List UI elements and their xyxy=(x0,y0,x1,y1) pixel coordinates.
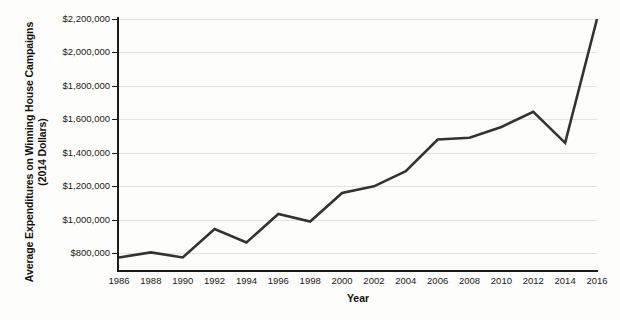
series-polyline xyxy=(119,19,597,257)
y-axis-tick-label: $1,800,000 xyxy=(40,80,110,91)
y-axis-tick-mark xyxy=(112,186,118,187)
y-axis-tick-mark xyxy=(112,253,118,254)
x-axis-tick-label: 2016 xyxy=(577,275,617,286)
y-axis-tick-mark xyxy=(112,52,118,53)
y-axis-tick-label: $2,200,000 xyxy=(40,13,110,24)
y-axis-tick-label: $1,600,000 xyxy=(40,113,110,124)
y-axis-tick-mark xyxy=(112,119,118,120)
x-axis-line xyxy=(117,270,598,272)
y-axis-tick-labels: $800,000$1,000,000$1,200,000$1,400,000$1… xyxy=(38,0,110,320)
line-chart-figure: Average Expenditures on Winning House Ca… xyxy=(0,0,620,320)
y-axis-tick-label: $1,200,000 xyxy=(40,180,110,191)
data-series-line xyxy=(119,19,597,270)
y-axis-title-line1: Average Expenditures on Winning House Ca… xyxy=(23,22,36,282)
y-axis-tick-label: $1,400,000 xyxy=(40,147,110,158)
y-axis-tick-mark xyxy=(112,86,118,87)
x-axis-tick-labels: 1986198819901992199419961998200020022004… xyxy=(0,275,620,289)
y-axis-tick-mark xyxy=(112,153,118,154)
x-axis-title: Year xyxy=(119,292,597,304)
y-axis-tick-label: $1,000,000 xyxy=(40,214,110,225)
y-axis-tick-mark xyxy=(112,19,118,20)
y-axis-tick-label: $2,000,000 xyxy=(40,46,110,57)
y-axis-tick-label: $800,000 xyxy=(40,247,110,258)
y-axis-tick-mark xyxy=(112,220,118,221)
